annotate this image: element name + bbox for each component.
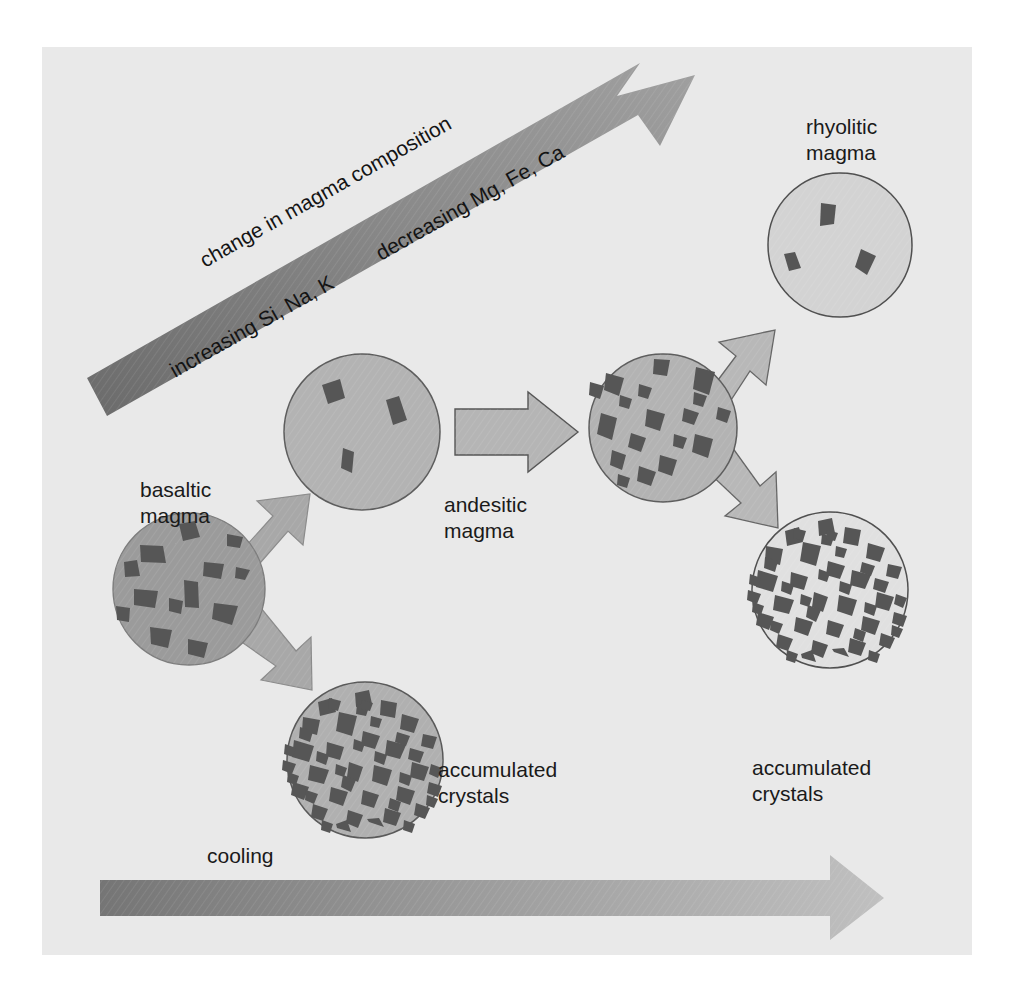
label-cooling: cooling <box>207 843 274 869</box>
connector-andesite-to-evolved <box>455 392 578 472</box>
label-accumulated-crystals-right: accumulated crystals <box>752 755 871 807</box>
label-basaltic-magma: basaltic magma <box>140 477 211 529</box>
node-accumulated-crystals-left <box>282 682 443 838</box>
label-rhyolitic-magma: rhyolitic magma <box>806 114 877 166</box>
node-rhyolitic-magma <box>768 173 912 317</box>
label-andesitic-magma: andesitic magma <box>444 492 527 544</box>
node-andesitic-evolved-magma <box>589 354 737 502</box>
node-accumulated-crystals-right <box>747 512 908 668</box>
node-andesitic-magma <box>284 354 440 510</box>
label-accumulated-crystals-left: accumulated crystals <box>438 757 557 809</box>
magma-differentiation-figure: change in magma composition increasing S… <box>0 0 1019 994</box>
node-basaltic-magma <box>113 513 265 665</box>
